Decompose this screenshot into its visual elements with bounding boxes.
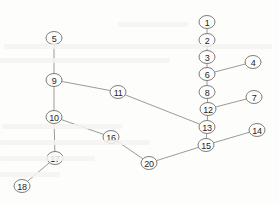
- node-label: 12: [203, 105, 213, 115]
- graph-node-2[interactable]: 2: [199, 34, 215, 47]
- graph-node-11[interactable]: 11: [110, 86, 126, 99]
- graph-node-3[interactable]: 3: [199, 51, 215, 64]
- graph-node-18[interactable]: 18: [14, 180, 30, 193]
- node-label: 9: [52, 76, 57, 86]
- node-label: 13: [202, 123, 212, 133]
- graph-edge: [62, 81, 110, 90]
- node-label: 17: [50, 154, 60, 164]
- node-label: 16: [106, 133, 116, 143]
- node-label: 10: [49, 113, 59, 123]
- graph-canvas: 12345678910111213141516171820: [0, 0, 279, 205]
- graph-edge: [54, 124, 55, 152]
- node-label: 4: [251, 58, 256, 68]
- graph-edge: [156, 147, 198, 160]
- graph-node-20[interactable]: 20: [141, 157, 157, 170]
- graph-node-8[interactable]: 8: [199, 86, 215, 99]
- graph-node-6[interactable]: 6: [199, 68, 215, 81]
- graph-node-1[interactable]: 1: [199, 16, 215, 29]
- node-label: 15: [201, 141, 211, 151]
- node-label: 2: [205, 36, 210, 46]
- graph-edge: [215, 64, 246, 72]
- graph-edge: [214, 132, 250, 143]
- graph-node-12[interactable]: 12: [200, 103, 216, 116]
- graph-edge: [28, 163, 50, 182]
- graph-node-9[interactable]: 9: [46, 74, 62, 87]
- node-label: 14: [252, 126, 262, 136]
- graph-node-4[interactable]: 4: [245, 56, 261, 69]
- graph-node-16[interactable]: 16: [103, 131, 119, 144]
- graph-node-15[interactable]: 15: [198, 139, 214, 152]
- node-label: 6: [205, 70, 210, 80]
- node-label: 1: [205, 18, 210, 28]
- node-label: 11: [114, 88, 123, 98]
- graph-edge: [61, 120, 103, 135]
- graph-node-14[interactable]: 14: [249, 124, 265, 137]
- graph-diagram: 12345678910111213141516171820: [0, 0, 279, 205]
- graph-edge: [117, 141, 143, 159]
- graph-node-13[interactable]: 13: [199, 121, 215, 134]
- graph-node-10[interactable]: 10: [46, 111, 62, 124]
- graph-node-5[interactable]: 5: [46, 32, 62, 45]
- graph-node-17[interactable]: 17: [47, 152, 63, 165]
- node-label: 18: [17, 182, 27, 192]
- graph-edge: [125, 95, 200, 124]
- node-label: 3: [205, 53, 210, 63]
- node-label: 5: [52, 34, 57, 44]
- graph-node-7[interactable]: 7: [246, 91, 262, 104]
- node-label: 20: [144, 159, 154, 169]
- node-label: 8: [205, 88, 210, 98]
- node-label: 7: [252, 93, 257, 103]
- graph-edge: [216, 99, 247, 107]
